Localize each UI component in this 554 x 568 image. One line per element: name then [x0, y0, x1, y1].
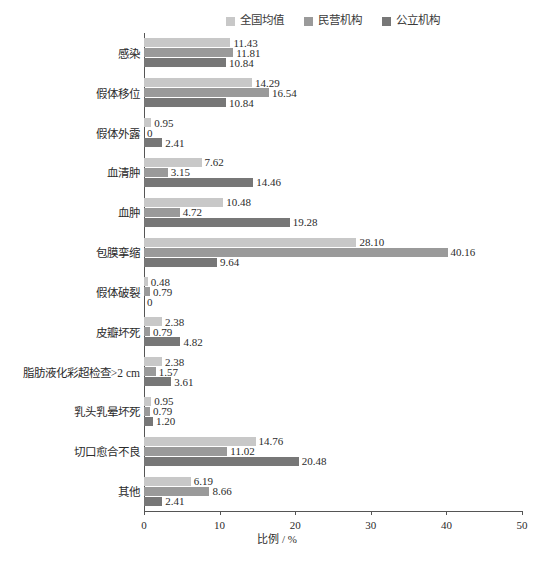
category-label: 感染 [118, 45, 140, 61]
bar-group: 其他6.198.662.41 [144, 477, 522, 506]
bar-group: 乳头乳晕坏死0.950.791.20 [144, 397, 522, 426]
bar-group: 切口愈合不良14.7611.0220.48 [144, 437, 522, 466]
bar-value-label: 0.79 [150, 286, 172, 298]
bar-公立机构[interactable] [144, 138, 162, 147]
legend-swatch-icon [226, 17, 235, 26]
bar-民营机构[interactable] [144, 248, 448, 257]
bar-row: 3.61 [144, 377, 522, 386]
bar-group: 脂肪液化彩超检查>2 cm2.381.573.61 [144, 357, 522, 386]
bar-value-label: 19.28 [290, 216, 318, 228]
bar-民营机构[interactable] [144, 48, 233, 57]
bar-row: 14.29 [144, 78, 522, 87]
bar-row: 4.82 [144, 337, 522, 346]
bar-value-label: 16.54 [269, 87, 297, 99]
bar-公立机构[interactable] [144, 258, 217, 267]
bar-全国均值[interactable] [144, 78, 252, 87]
bar-value-label: 20.48 [299, 455, 327, 467]
bar-value-label: 14.46 [253, 176, 281, 188]
bar-公立机构[interactable] [144, 98, 226, 107]
x-tick-mark [295, 511, 296, 515]
bar-row: 2.38 [144, 357, 522, 366]
bar-row: 14.76 [144, 437, 522, 446]
bar-value-label: 0 [144, 127, 153, 139]
bar-公立机构[interactable] [144, 417, 153, 426]
x-tick-mark [446, 511, 447, 515]
bar-value-label: 40.16 [448, 246, 476, 258]
bar-row: 16.54 [144, 88, 522, 97]
bar-group: 假体破裂0.480.790 [144, 277, 522, 306]
x-tick-mark [220, 511, 221, 515]
bar-row: 40.16 [144, 248, 522, 257]
bar-group: 皮瓣坏死2.380.794.82 [144, 317, 522, 346]
bar-row: 1.57 [144, 367, 522, 376]
x-axis-title: 比例 / % [0, 530, 554, 546]
category-label: 血肿 [118, 204, 140, 220]
bar-value-label: 11.02 [227, 445, 254, 457]
legend-swatch-icon [382, 17, 391, 26]
legend-label: 公立机构 [396, 15, 440, 27]
bar-value-label: 3.15 [168, 166, 190, 178]
plot-area: 01020304050感染11.4311.8110.84假体移位14.2916.… [144, 33, 522, 511]
bar-value-label: 4.72 [180, 206, 202, 218]
bar-row: 0.48 [144, 277, 522, 286]
bar-value-label: 7.62 [202, 156, 224, 168]
bar-民营机构[interactable] [144, 367, 156, 376]
bar-公立机构[interactable] [144, 337, 180, 346]
bar-value-label: 28.10 [356, 236, 384, 248]
bar-value-label: 10.84 [226, 97, 254, 109]
category-label: 假体外露 [96, 125, 140, 141]
x-tick-mark [144, 511, 145, 515]
bar-全国均值[interactable] [144, 477, 191, 486]
bar-row: 11.02 [144, 447, 522, 456]
bar-row: 0.79 [144, 407, 522, 416]
bar-row: 8.66 [144, 487, 522, 496]
bar-row: 0 [144, 128, 522, 137]
category-label: 切口愈合不良 [74, 443, 140, 459]
bar-value-label: 3.61 [171, 376, 193, 388]
bar-row: 2.41 [144, 497, 522, 506]
bar-公立机构[interactable] [144, 178, 253, 187]
bar-value-label: 4.82 [180, 336, 202, 348]
bar-value-label: 0 [144, 296, 153, 308]
bar-row: 9.64 [144, 258, 522, 267]
bar-公立机构[interactable] [144, 457, 299, 466]
bar-value-label: 9.64 [217, 256, 239, 268]
bar-group: 血清肿7.623.1514.46 [144, 158, 522, 187]
bar-民营机构[interactable] [144, 168, 168, 177]
bar-民营机构[interactable] [144, 208, 180, 217]
legend-label: 民营机构 [318, 15, 362, 27]
bar-chart: 全国均值民营机构公立机构 01020304050感染11.4311.8110.8… [0, 0, 554, 568]
bar-value-label: 0.79 [150, 326, 172, 338]
category-label: 其他 [118, 483, 140, 499]
bar-民营机构[interactable] [144, 447, 227, 456]
bar-row: 11.43 [144, 38, 522, 47]
bar-row: 2.38 [144, 317, 522, 326]
legend-item-0[interactable]: 全国均值 [226, 15, 284, 27]
x-tick-mark [371, 511, 372, 515]
bar-公立机构[interactable] [144, 58, 226, 67]
bar-row: 10.84 [144, 58, 522, 67]
bar-公立机构[interactable] [144, 218, 290, 227]
category-label: 假体破裂 [96, 284, 140, 300]
legend-item-2[interactable]: 公立机构 [382, 15, 440, 27]
bar-公立机构[interactable] [144, 497, 162, 506]
x-tick-mark [522, 511, 523, 515]
bar-row: 0.79 [144, 287, 522, 296]
bar-row: 4.72 [144, 208, 522, 217]
legend-item-1[interactable]: 民营机构 [304, 15, 362, 27]
bar-全国均值[interactable] [144, 238, 356, 247]
bar-value-label: 10.48 [223, 196, 251, 208]
category-label: 包膜挛缩 [96, 244, 140, 260]
bar-value-label: 14.76 [256, 435, 284, 447]
category-label: 血清肿 [107, 164, 140, 180]
bar-value-label: 8.66 [209, 485, 231, 497]
bar-row: 2.41 [144, 138, 522, 147]
bar-value-label: 0.95 [151, 117, 173, 129]
bar-公立机构[interactable] [144, 377, 171, 386]
bar-group: 血肿10.484.7219.28 [144, 198, 522, 227]
bar-value-label: 1.20 [153, 415, 175, 427]
bar-row: 10.84 [144, 98, 522, 107]
bar-全国均值[interactable] [144, 38, 230, 47]
category-label: 皮瓣坏死 [96, 324, 140, 340]
bar-value-label: 2.41 [162, 137, 184, 149]
